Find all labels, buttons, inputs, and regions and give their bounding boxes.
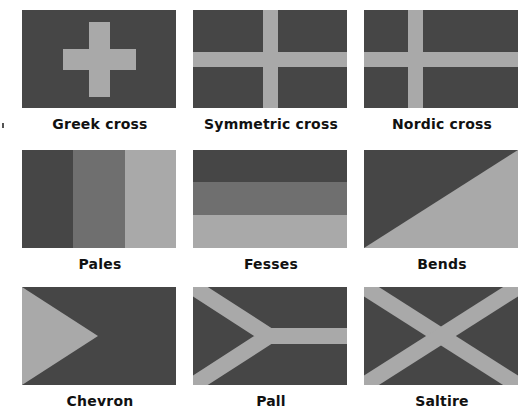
flag-label: Pall [193,393,349,409]
flag-label: Symmetric cross [193,116,349,132]
flag-symmetric-cross [193,10,347,108]
fess-bottom [193,215,347,248]
flag-label: Bends [364,256,520,272]
flag-cell-symmetric-cross: Symmetric cross [193,10,349,108]
flag-label: Saltire [364,393,520,409]
fess-middle [193,182,347,215]
flag-pall [193,287,347,385]
flag-bends [364,150,518,248]
pale-center [73,150,125,248]
flag-fesses [193,150,347,248]
flag-label: Nordic cross [364,116,520,132]
cross-horizontal [63,49,136,70]
flag-label: Greek cross [22,116,178,132]
flag-greek-cross [22,10,176,108]
flag-nordic-cross [364,10,518,108]
flag-cell-pall: Pall [193,287,349,385]
flag-cell-greek-cross: Greek cross [22,10,178,108]
stray-mark [2,123,4,128]
flag-cell-fesses: Fesses [193,150,349,248]
flag-pales [22,150,176,248]
pale-left [22,150,74,248]
flag-cell-nordic-cross: Nordic cross [364,10,520,108]
flag-label: Chevron [22,393,178,409]
pale-right [125,150,176,248]
flag-cell-chevron: Chevron [22,287,178,385]
cross-horizontal [193,52,347,67]
flag-cell-pales: Pales [22,150,178,248]
flag-label: Fesses [193,256,349,272]
flag-cell-bends: Bends [364,150,520,248]
flag-saltire [364,287,518,385]
cross-horizontal [364,52,518,67]
flag-cell-saltire: Saltire [364,287,520,385]
fess-top [193,150,347,183]
flag-label: Pales [22,256,178,272]
flag-chevron [22,287,176,385]
